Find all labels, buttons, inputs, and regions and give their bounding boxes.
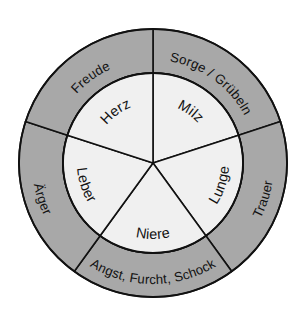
inner-disc-sector-group bbox=[63, 73, 243, 253]
organ-label-niere: Niere bbox=[135, 224, 171, 242]
five-element-wheel-diagram: Sorge / GrübelnTrauerAngst, Furcht, Scho… bbox=[0, 0, 307, 321]
wheel-svg-canvas: Sorge / GrübelnTrauerAngst, Furcht, Scho… bbox=[0, 0, 307, 321]
